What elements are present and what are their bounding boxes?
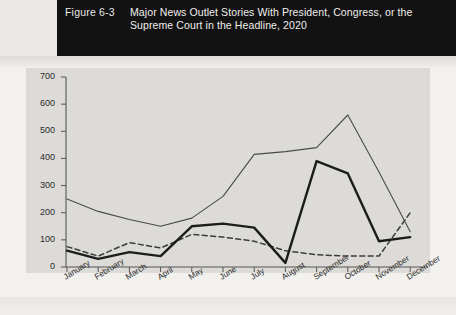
y-axis-tick-label: 400 [29,152,55,162]
y-axis-tick-label: 300 [29,180,55,190]
y-axis-tick-label: 0 [29,261,55,271]
y-axis-tick-label: 200 [29,207,55,217]
y-axis-tick-label: 100 [29,234,55,244]
series-line-congress [67,213,410,256]
y-axis-tick-label: 600 [29,98,55,108]
y-axis-tick-label: 700 [29,71,55,81]
y-axis-tick-label: 500 [29,125,55,135]
chart-axes [66,77,428,267]
scan-smudge-bottom [0,297,456,315]
chart-series-group [67,115,410,263]
y-axis-ticks [61,77,66,267]
series-line-president [67,115,410,232]
